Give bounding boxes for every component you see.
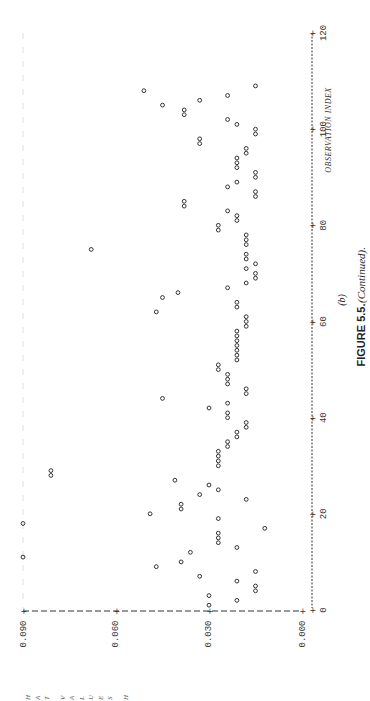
svg-text:A: A — [68, 695, 76, 701]
data-point — [207, 594, 211, 598]
data-point — [226, 445, 230, 449]
data-point — [216, 228, 220, 232]
data-point — [254, 589, 258, 593]
data-point — [182, 199, 186, 203]
scatter-plot: 0.090 0.060 0.030 0.000 ++++ +++++++ 020… — [0, 0, 370, 701]
data-point — [216, 517, 220, 521]
data-point — [226, 382, 230, 386]
data-point — [235, 546, 239, 550]
data-point — [161, 296, 165, 300]
data-point — [226, 416, 230, 420]
data-point — [179, 507, 183, 511]
data-point — [148, 512, 152, 516]
h-value-axis: 0.090 0.060 0.030 0.000 ++++ — [19, 607, 308, 648]
figure-caption-text: (Continued). — [355, 247, 368, 303]
data-point — [244, 233, 248, 237]
x-axis-title: OBSERVATION INDEX — [324, 87, 333, 173]
data-point — [49, 469, 53, 473]
data-point — [198, 98, 202, 102]
data-point — [154, 310, 158, 314]
data-point — [198, 574, 202, 578]
observation-index-axis: +++++++ 020406080100120 OBSERVATION INDE… — [310, 25, 334, 615]
data-point — [244, 238, 248, 242]
data-point — [235, 339, 239, 343]
data-point — [254, 132, 258, 136]
data-point — [226, 209, 230, 213]
data-point — [235, 161, 239, 165]
data-point — [235, 180, 239, 184]
svg-text:+: + — [300, 607, 307, 616]
data-point — [207, 406, 211, 410]
x-tick-0: 0 — [319, 607, 329, 612]
data-point — [182, 204, 186, 208]
svg-text:+: + — [310, 318, 317, 327]
svg-text:S: S — [106, 696, 114, 700]
data-point — [244, 151, 248, 155]
x-tick-40: 40 — [319, 412, 329, 423]
y-tick-2: 0.030 — [204, 620, 214, 647]
data-point — [254, 570, 258, 574]
data-point — [235, 123, 239, 127]
svg-text:T: T — [43, 695, 51, 700]
data-point — [226, 94, 230, 98]
data-point — [198, 137, 202, 141]
data-point — [244, 147, 248, 151]
data-point — [244, 498, 248, 502]
data-point — [176, 291, 180, 295]
svg-text:+: + — [310, 221, 317, 230]
data-point — [254, 584, 258, 588]
data-point — [226, 118, 230, 122]
data-point — [226, 373, 230, 377]
data-point — [235, 305, 239, 309]
data-point — [216, 363, 220, 367]
svg-text:L: L — [78, 696, 86, 701]
data-point — [154, 565, 158, 569]
svg-text:+: + — [310, 125, 317, 134]
svg-text:+: + — [310, 414, 317, 423]
y-tick-3: 0.000 — [298, 620, 308, 647]
data-point — [198, 142, 202, 146]
data-point — [244, 320, 248, 324]
data-point — [198, 493, 202, 497]
data-point — [235, 300, 239, 304]
data-point — [235, 214, 239, 218]
data-point — [244, 257, 248, 261]
data-point — [235, 358, 239, 362]
svg-text:+: + — [310, 606, 317, 615]
data-point — [216, 459, 220, 463]
data-point — [254, 262, 258, 266]
data-point — [216, 531, 220, 535]
x-tick-60: 60 — [319, 316, 329, 327]
data-point — [226, 286, 230, 290]
svg-text:H: H — [24, 694, 32, 701]
data-points — [21, 84, 267, 607]
svg-text:V: V — [59, 695, 67, 700]
data-point — [235, 353, 239, 357]
data-point — [179, 502, 183, 506]
data-point — [244, 267, 248, 271]
y-tick-0: 0.090 — [19, 620, 29, 647]
data-point — [263, 526, 267, 530]
data-point — [226, 377, 230, 381]
svg-text:E: E — [97, 695, 105, 701]
data-point — [216, 536, 220, 540]
data-point — [254, 195, 258, 199]
data-point — [235, 348, 239, 352]
data-point — [254, 127, 258, 131]
y-tick-1: 0.060 — [111, 620, 121, 647]
data-point — [179, 560, 183, 564]
data-point — [189, 550, 193, 554]
data-point — [254, 84, 258, 88]
data-point — [235, 430, 239, 434]
data-point — [173, 478, 177, 482]
data-point — [235, 156, 239, 160]
data-point — [226, 411, 230, 415]
svg-text:+: + — [21, 607, 28, 616]
data-point — [235, 435, 239, 439]
data-point — [182, 113, 186, 117]
data-point — [207, 483, 211, 487]
svg-text:+: + — [310, 29, 317, 38]
data-point — [142, 89, 146, 93]
data-point — [226, 185, 230, 189]
svg-text:+: + — [310, 510, 317, 519]
